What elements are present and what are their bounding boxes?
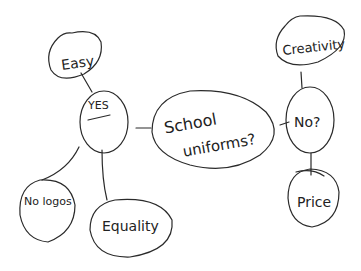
- connector-yes-nologos: [42, 147, 79, 180]
- node-center-line2: uniforms?: [181, 130, 257, 161]
- node-no-logos-label: No logos: [24, 195, 72, 208]
- node-yes: YES: [80, 91, 128, 153]
- node-no-label: No?: [294, 114, 320, 130]
- connectors: [42, 72, 324, 200]
- mind-map-canvas: Easy YES School uniforms? Creativity No?…: [0, 0, 361, 271]
- connector-yes-equality: [102, 150, 107, 200]
- node-equality-label: Equality: [102, 218, 159, 234]
- connector-center-no: [280, 122, 289, 125]
- connector-easy-yes: [81, 73, 92, 92]
- node-creativity-label: Creativity: [282, 36, 346, 58]
- node-price-label: Price: [297, 194, 331, 210]
- node-center: School uniforms?: [152, 91, 274, 169]
- node-no: No?: [286, 87, 334, 153]
- node-price: Price: [288, 169, 339, 227]
- node-no-logos: No logos: [20, 180, 75, 242]
- connector-creativity-no: [301, 72, 302, 88]
- node-center-line1: School: [163, 110, 219, 138]
- node-easy: Easy: [49, 32, 102, 78]
- node-equality: Equality: [90, 199, 172, 257]
- node-creativity: Creativity: [276, 16, 346, 65]
- node-yes-label: YES: [87, 99, 109, 112]
